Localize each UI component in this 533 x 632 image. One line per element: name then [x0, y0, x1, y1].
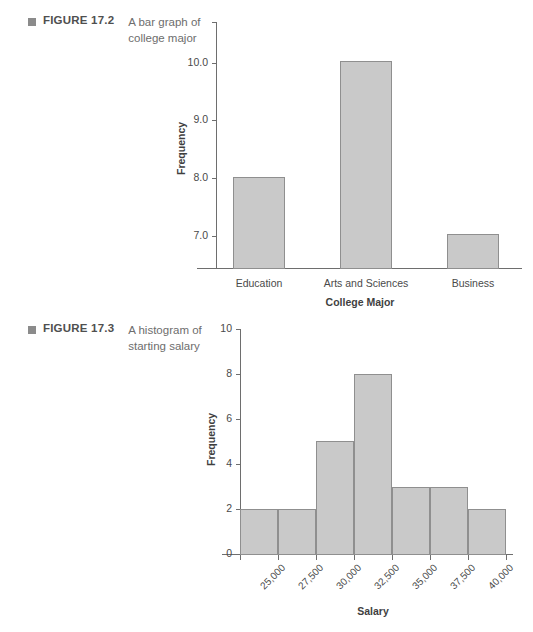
x-tick-label: 27,500	[296, 562, 325, 591]
x-tick-label: 35,000	[410, 562, 439, 591]
y-tick-label: 0	[208, 547, 232, 559]
histogram-bar	[316, 441, 354, 555]
y-tick-label: 2	[208, 502, 232, 514]
y-tick-label: 8	[208, 367, 232, 379]
x-tick-mark	[240, 555, 241, 560]
x-tick-mark	[316, 555, 317, 560]
x-tick-label: 37,500	[448, 562, 477, 591]
x-tick-mark	[354, 555, 355, 560]
x-tick-label: 25,000	[258, 562, 287, 591]
histogram-bar	[354, 374, 392, 555]
y-axis-title: Frequency	[205, 413, 217, 466]
x-tick-mark	[278, 555, 279, 560]
y-tick-mark	[236, 374, 241, 375]
histogram-bar	[430, 487, 468, 555]
x-tick-label: 32,500	[372, 562, 401, 591]
x-tick-mark	[506, 555, 507, 560]
histogram-bar	[468, 509, 506, 555]
y-tick-mark	[236, 329, 241, 330]
histogram-bar	[392, 487, 430, 555]
x-tick-mark	[430, 555, 431, 560]
histogram-bar	[278, 509, 316, 555]
y-tick-mark	[236, 419, 241, 420]
x-tick-label: 30,000	[334, 562, 363, 591]
x-tick-mark	[392, 555, 393, 560]
x-tick-label: 40,000	[486, 562, 515, 591]
y-tick-label: 10	[208, 322, 232, 334]
y-tick-mark	[236, 464, 241, 465]
x-tick-mark	[468, 555, 469, 560]
x-axis-title: Salary	[323, 605, 423, 617]
histogram-bar	[240, 509, 278, 555]
histogram-chart-starting-salary: 10 8 6 4 2 0 Frequency 25,000 27,500 30,…	[0, 0, 533, 632]
